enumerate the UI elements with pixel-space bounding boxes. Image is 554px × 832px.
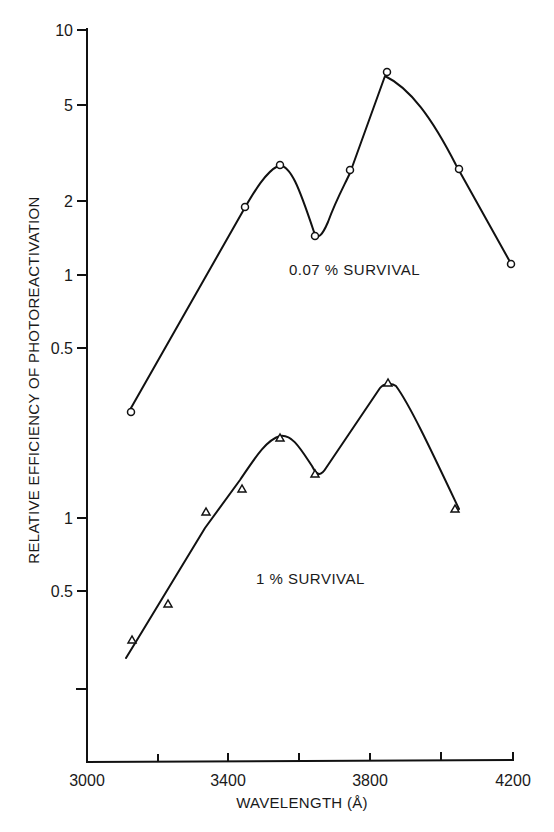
x-tick-label: 3800	[352, 772, 388, 789]
data-point-triangle	[202, 508, 210, 515]
data-point-circle	[456, 166, 463, 173]
y-tick-label: 5	[64, 97, 73, 114]
x-tick-label: 4200	[495, 772, 531, 789]
series-lower-markers	[128, 379, 459, 643]
y-tick-label: 1	[64, 267, 73, 284]
data-point-circle	[128, 409, 135, 416]
x-tick-label: 3400	[210, 772, 246, 789]
series-lower-curve	[126, 384, 459, 658]
series-upper-label: 0.07 % SURVIVAL	[289, 261, 420, 278]
data-point-circle	[242, 204, 249, 211]
x-axis-title: WAVELENGTH (Å)	[236, 794, 368, 811]
data-point-circle	[312, 233, 319, 240]
series-upper-curve	[131, 76, 509, 408]
data-point-triangle	[311, 470, 319, 477]
y-ticks-lower	[76, 518, 87, 689]
y-tick-label: 0.5	[51, 583, 73, 600]
data-point-triangle	[128, 636, 136, 643]
data-point-circle	[508, 261, 515, 268]
data-point-triangle	[164, 600, 172, 607]
y-tick-label: 10	[55, 22, 73, 39]
x-tick-labels: 3000 3400 3800 4200	[69, 772, 531, 789]
data-point-circle	[347, 167, 354, 174]
data-point-circle	[277, 162, 284, 169]
photoreactivation-chart: 3000 3400 3800 4200 WAVELENGTH (Å) 10 5 …	[0, 0, 554, 832]
series-lower-label: 1 % SURVIVAL	[256, 570, 365, 587]
axes	[86, 28, 514, 762]
y-tick-label: 1	[64, 510, 73, 527]
data-point-circle	[384, 69, 391, 76]
y-axis-title: RELATIVE EFFICIENCY OF PHOTOREACTIVATION	[25, 196, 42, 563]
y-tick-labels-upper: 10 5 2 1 0.5	[51, 22, 73, 357]
series-upper-markers	[128, 69, 515, 416]
data-point-triangle	[384, 379, 392, 386]
data-point-triangle	[238, 485, 246, 492]
x-tick-label: 3000	[69, 772, 105, 789]
series-upper	[128, 69, 515, 416]
y-tick-label: 0.5	[51, 340, 73, 357]
y-ticks-upper	[77, 30, 87, 348]
series-lower	[126, 379, 459, 658]
y-tick-labels-lower: 1 0.5	[51, 510, 73, 600]
y-tick-label: 2	[64, 193, 73, 210]
